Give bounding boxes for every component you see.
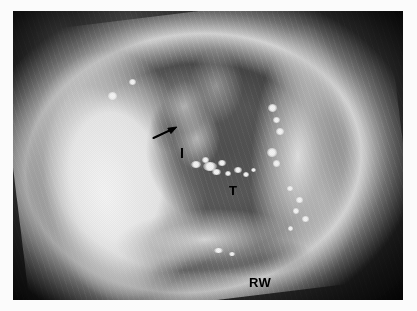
intraoperative-photograph: I T RW xyxy=(13,11,403,300)
label-round-window: RW xyxy=(249,276,271,289)
label-tympanic: T xyxy=(229,184,237,197)
pointer-arrow-icon xyxy=(147,123,183,142)
figure-root: I T RW xyxy=(0,0,417,311)
label-incus: I xyxy=(180,146,184,160)
annotation-overlay: I T RW xyxy=(13,11,403,300)
